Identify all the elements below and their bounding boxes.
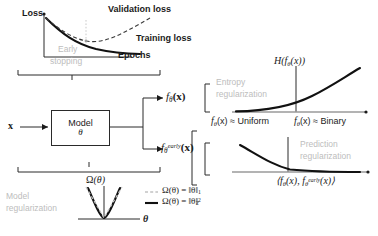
- entropy-regularization-label-line1: Entropy: [216, 78, 245, 87]
- theta-axis-label: θ: [143, 214, 148, 224]
- entropy-left-tail: (x) ≈ Uniform: [217, 116, 269, 126]
- training-loss-label: Training loss: [136, 34, 192, 43]
- model-box-parameter: θ: [78, 128, 82, 137]
- legend-l2-text: Ω(θ) = ‖θ‖: [162, 196, 198, 206]
- model-regularization-label-line1: Model: [6, 192, 29, 201]
- early-stopping-brace: [18, 70, 160, 80]
- model-regularization-plot: [78, 186, 140, 219]
- regularization-overview-diagram: Loss Validation loss Training loss Epoch…: [0, 0, 378, 236]
- entropy-right-tail: (x) ≈ Binary: [300, 116, 346, 126]
- prediction-regularization-label-line1: Prediction: [300, 140, 338, 149]
- early-stopping-label-line2: stopping: [50, 57, 82, 66]
- prediction-regularization-label-line2: regularization: [300, 152, 351, 161]
- legend-l1-text: Ω(θ) = ‖θ‖: [162, 185, 198, 195]
- omega-axis-label: Ω(θ): [86, 175, 105, 185]
- early-stopping-label-line1: Early: [58, 45, 77, 54]
- pred-open: ⟨f: [276, 175, 283, 186]
- entropy-regularization-label-line2: regularization: [216, 90, 267, 99]
- output-brackets: [192, 84, 210, 185]
- legend-item-l1: Ω(θ) = ‖θ‖1: [162, 186, 201, 196]
- legend-l2-sub: 2: [196, 200, 199, 206]
- pred-sup2: early: [308, 177, 320, 183]
- epochs-axis-label: Epochs: [118, 51, 151, 60]
- output-top-arg: (x): [173, 90, 186, 102]
- model-regularization-brace: [18, 162, 160, 172]
- entropy-axis-label: H(fθ(x)): [274, 56, 305, 67]
- legend-l1-sub: 1: [198, 189, 201, 195]
- model-input-label: x: [8, 121, 13, 131]
- entropy-x-left-label: fθ(x) ≈ Uniform: [211, 116, 269, 127]
- loss-axis-label: Loss: [22, 9, 43, 18]
- model-box: Model θ: [51, 110, 110, 146]
- output-bottom-arg: (x): [181, 141, 194, 153]
- model-regularization-label-line2: regularization: [6, 204, 57, 213]
- prediction-x-axis-label: ⟨fθ(x), fθearly(x)⟩: [276, 176, 335, 187]
- model-output-bottom: fθearly(x): [161, 142, 194, 155]
- model-output-top: fθ(x): [166, 91, 185, 104]
- legend-item-l2: Ω(θ) = ‖θ‖22: [162, 197, 199, 207]
- validation-loss-label: Validation loss: [108, 5, 171, 14]
- output-bottom-sup: early: [168, 142, 181, 149]
- pred-close: (x)⟩: [320, 175, 335, 186]
- model-regularization-legend-swatches: [145, 192, 158, 203]
- entropy-x-right-label: fθ(x) ≈ Binary: [294, 116, 346, 127]
- pred-mid: (x), f: [286, 175, 305, 186]
- entropy-tail: (x)): [291, 55, 305, 66]
- omega-arg: (θ): [93, 174, 105, 185]
